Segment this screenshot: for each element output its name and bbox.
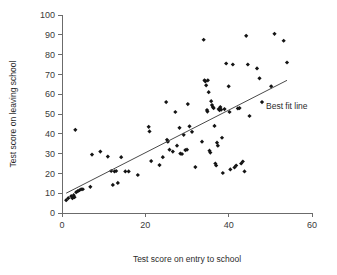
- data-point: [260, 100, 264, 104]
- y-tick-label: 50: [45, 109, 55, 119]
- y-tick-label: 20: [45, 169, 55, 179]
- data-point: [157, 163, 161, 167]
- y-tick-label: 60: [45, 89, 55, 99]
- data-point: [173, 110, 177, 114]
- scatter-chart: 0102030405060708090100 0204060 Best fit …: [0, 0, 337, 275]
- data-point: [88, 185, 92, 189]
- data-point: [246, 62, 250, 66]
- data-point: [175, 144, 179, 148]
- data-point: [212, 124, 216, 128]
- data-point: [228, 167, 232, 171]
- data-point: [167, 148, 171, 152]
- data-point: [136, 173, 140, 177]
- data-point: [186, 102, 190, 106]
- x-tick-label: 20: [140, 220, 150, 230]
- data-point: [164, 100, 168, 104]
- data-point: [224, 61, 228, 65]
- data-point: [215, 141, 219, 145]
- data-point: [282, 39, 286, 43]
- data-point: [207, 90, 211, 94]
- y-tick-label: 90: [45, 30, 55, 40]
- best-fit-line-label: Best fit line: [266, 101, 308, 111]
- data-point: [222, 107, 226, 111]
- data-point: [171, 150, 175, 154]
- data-point: [90, 152, 94, 156]
- data-point: [255, 66, 259, 70]
- data-point: [106, 154, 110, 158]
- best-fit-line: [66, 80, 287, 193]
- data-point: [149, 159, 153, 163]
- data-point: [98, 150, 102, 154]
- data-point: [257, 76, 261, 80]
- data-point: [202, 38, 206, 42]
- data-point: [190, 130, 194, 134]
- data-point: [242, 169, 246, 173]
- data-point: [221, 171, 225, 175]
- y-tick-label: 30: [45, 149, 55, 159]
- data-point: [231, 62, 235, 66]
- data-point: [216, 144, 220, 148]
- data-point: [147, 125, 151, 129]
- data-point: [177, 126, 181, 130]
- data-point: [244, 34, 248, 38]
- data-point: [73, 128, 77, 132]
- data-point: [220, 136, 224, 140]
- data-point: [209, 99, 213, 103]
- data-point: [272, 32, 276, 36]
- data-point: [193, 165, 197, 169]
- data-point: [161, 155, 165, 159]
- data-point: [187, 124, 191, 128]
- x-tick-label: 0: [59, 220, 64, 230]
- data-point: [200, 140, 204, 144]
- y-axis-ticks: 0102030405060708090100: [40, 10, 62, 218]
- y-tick-label: 10: [45, 188, 55, 198]
- data-point: [204, 83, 208, 87]
- plot-area: 0102030405060708090100 0204060 Best fit …: [0, 0, 337, 275]
- y-tick-label: 40: [45, 129, 55, 139]
- data-point: [111, 183, 115, 187]
- data-point: [247, 114, 251, 118]
- data-point: [227, 84, 231, 88]
- x-axis-ticks: 0204060: [59, 213, 317, 230]
- y-tick-label: 100: [40, 10, 55, 20]
- data-point: [127, 169, 131, 173]
- x-tick-label: 40: [224, 220, 234, 230]
- data-point: [147, 129, 151, 133]
- data-point: [116, 181, 120, 185]
- x-tick-label: 60: [307, 220, 317, 230]
- x-axis-title: Test score on entry to school: [133, 254, 241, 264]
- y-tick-label: 0: [50, 208, 55, 218]
- y-tick-label: 80: [45, 50, 55, 60]
- y-axis-title: Test score on leaving school: [8, 60, 18, 167]
- data-point: [119, 155, 123, 159]
- y-tick-label: 70: [45, 70, 55, 80]
- data-point: [285, 60, 289, 64]
